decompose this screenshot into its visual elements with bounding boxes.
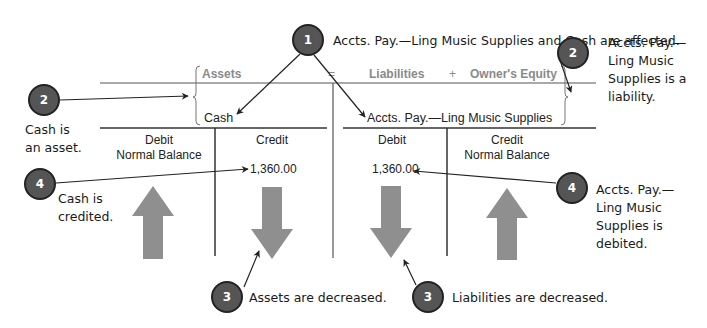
callout-4-right-line-2: Ling Music (596, 200, 662, 215)
ap-decrease-arrow-icon (370, 186, 412, 258)
callout-2-right-line-3: Supplies is a (608, 71, 686, 86)
badge-4-left-number: 4 (36, 177, 44, 191)
callout-2-left-line-1: Cash is (25, 122, 70, 137)
callout-4-left: 4 Cash is credited. (25, 169, 113, 224)
callout-2-right-line-4: liability. (608, 89, 655, 104)
pointer-1-to-ap (314, 55, 365, 117)
cash-debit-subheader: Normal Balance (116, 148, 202, 162)
callout-4-right-line-3: Supplies is (596, 218, 663, 233)
pointer-4-left (56, 169, 248, 183)
callout-3-left: 3 Assets are decreased. (212, 282, 387, 312)
callout-4-right: 4 Accts. Pay.— Ling Music Supplies is de… (557, 173, 674, 251)
callout-pointers (56, 54, 571, 287)
cash-increase-arrow-icon (132, 186, 174, 259)
callout-2-right: 2 Accts. Pay.— Ling Music Supplies is a … (558, 35, 686, 104)
ap-credit-header: Credit (491, 133, 524, 147)
callout-4-left-line-1: Cash is (58, 191, 103, 206)
callout-3-left-text: Assets are decreased. (249, 290, 387, 305)
liabilities-label: Liabilities (369, 67, 425, 81)
callout-2-right-line-2: Ling Music (608, 53, 674, 68)
ap-account-name: Accts. Pay.—Ling Music Supplies (367, 111, 552, 125)
ap-credit-subheader: Normal Balance (464, 148, 550, 162)
callout-3-right: 3 Liabilities are decreased. (413, 282, 608, 312)
owners-equity-label: Owner's Equity (470, 67, 557, 81)
ap-debit-amount: 1,360.00 (372, 162, 419, 176)
plus-sign: + (449, 67, 456, 81)
assets-label: Assets (202, 67, 242, 81)
callout-4-right-line-1: Accts. Pay.— (596, 182, 674, 197)
pointer-3-right (404, 260, 416, 285)
badge-1-number: 1 (304, 33, 312, 47)
t-account-diagram: Assets = Liabilities + Owner's Equity Ca… (0, 0, 707, 328)
badge-3-left-number: 3 (223, 290, 231, 304)
ap-increase-arrow-icon (486, 188, 528, 260)
pointer-4-right (414, 171, 556, 183)
callout-2-left: 2 Cash is an asset. (25, 85, 82, 155)
assets-brace (193, 66, 200, 125)
callout-2-left-line-2: an asset. (25, 140, 82, 155)
cash-debit-header: Debit (145, 133, 174, 147)
cash-decrease-arrow-icon (251, 187, 293, 259)
badge-2-left-number: 2 (40, 93, 48, 107)
callout-3-right-text: Liabilities are decreased. (452, 290, 608, 305)
cash-account-name: Cash (204, 111, 233, 125)
pointer-1-to-cash (237, 54, 300, 114)
cash-credit-amount: 1,360.00 (250, 162, 297, 176)
pointer-2-left (60, 96, 188, 100)
pointer-3-left (244, 251, 259, 287)
badge-4-right-number: 4 (568, 181, 576, 195)
ap-debit-header: Debit (378, 133, 407, 147)
cash-credit-header: Credit (256, 133, 289, 147)
cash-t-account: Cash Debit Normal Balance Credit 1,360.0… (100, 111, 327, 259)
callout-2-right-line-1: Accts. Pay.— (608, 35, 686, 50)
callout-4-left-line-2: credited. (58, 209, 113, 224)
badge-2-right-number: 2 (569, 46, 577, 60)
accounting-equation: Assets = Liabilities + Owner's Equity (100, 66, 596, 258)
badge-3-right-number: 3 (424, 290, 432, 304)
callout-4-right-line-4: debited. (596, 236, 648, 251)
